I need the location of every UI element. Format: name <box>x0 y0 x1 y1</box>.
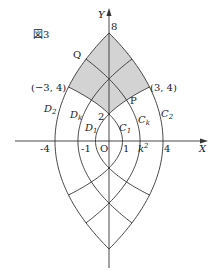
x-tick-minus1: -1 <box>81 143 91 154</box>
x-tick-4: 4 <box>164 143 170 154</box>
ck-sub: k <box>146 119 150 127</box>
origin-label: O <box>100 143 108 154</box>
figure-caption: 図3 <box>33 29 49 40</box>
dk-sub: k <box>78 114 82 122</box>
point-q-label: Q <box>73 49 81 60</box>
parabolic-coordinate-diagram: 図3 Y X O 8 2 -4 -1 1 k2 4 (−3, 4) (3, 4)… <box>0 0 217 273</box>
curve-label-dk: Dk <box>69 109 82 122</box>
y-tick-8: 8 <box>111 21 117 32</box>
x-tick-1: 1 <box>123 143 129 154</box>
dk-name: D <box>69 109 78 120</box>
y-axis-arrow-icon <box>107 8 112 16</box>
x-tick-k2: k2 <box>138 142 149 154</box>
x-tick-minus4: -4 <box>40 143 50 154</box>
d1-sub: 1 <box>93 127 97 135</box>
curve-label-c2: C2 <box>161 108 174 121</box>
curve-label-c1: C1 <box>119 122 131 135</box>
d2-sub: 2 <box>51 108 57 116</box>
d2-name: D <box>43 103 52 114</box>
c1-sub: 1 <box>127 127 131 135</box>
point-right-label: (3, 4) <box>150 82 177 93</box>
y-tick-2: 2 <box>98 111 104 122</box>
y-axis-label: Y <box>98 9 106 20</box>
c2-sub: 2 <box>168 113 174 121</box>
curve-label-d2: D2 <box>43 103 57 116</box>
d1-name: D <box>84 122 93 133</box>
curve-label-ck: Ck <box>138 114 150 127</box>
x-axis-label: X <box>198 143 207 154</box>
curve-label-d1: D1 <box>84 122 98 135</box>
point-p-label: P <box>130 95 137 106</box>
point-left-label: (−3, 4) <box>31 82 66 93</box>
x-tick-k2-sup: 2 <box>143 142 149 150</box>
